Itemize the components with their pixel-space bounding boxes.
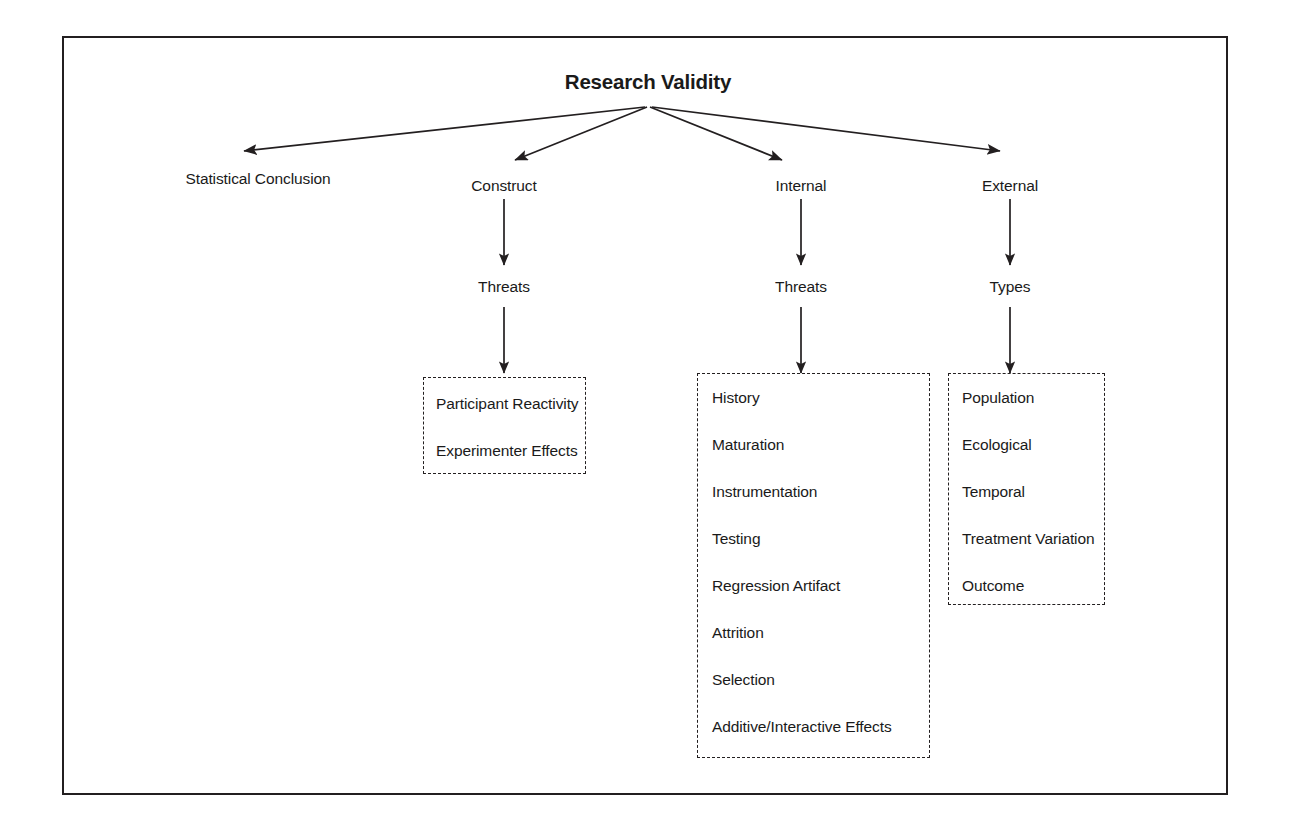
node-external-types: Types (990, 278, 1031, 296)
internal-threat-item: History (712, 389, 760, 407)
root-node-research-validity: Research Validity (565, 70, 731, 94)
internal-threat-item: Testing (712, 530, 760, 548)
construct-threat-item: Participant Reactivity (436, 395, 579, 413)
external-type-item: Treatment Variation (962, 530, 1095, 548)
external-type-item: Population (962, 389, 1034, 407)
internal-threat-item: Selection (712, 671, 775, 689)
internal-threat-item: Regression Artifact (712, 577, 840, 595)
node-construct-threats: Threats (478, 278, 530, 296)
construct-threat-item: Experimenter Effects (436, 442, 578, 460)
node-internal: Internal (776, 177, 827, 195)
internal-threat-item: Instrumentation (712, 483, 817, 501)
internal-threat-item: Additive/Interactive Effects (712, 718, 892, 736)
node-internal-threats: Threats (775, 278, 827, 296)
construct-threats-box: Participant Reactivity Experimenter Effe… (423, 377, 586, 474)
internal-threats-box: History Maturation Instrumentation Testi… (697, 373, 930, 758)
node-construct: Construct (471, 177, 536, 195)
external-types-box: Population Ecological Temporal Treatment… (948, 373, 1105, 605)
validity-diagram: Research Validity Statistical Conclusion… (0, 0, 1297, 826)
external-type-item: Ecological (962, 436, 1032, 454)
external-type-item: Temporal (962, 483, 1025, 501)
internal-threat-item: Attrition (712, 624, 764, 642)
node-statistical-conclusion: Statistical Conclusion (185, 170, 330, 188)
node-external: External (982, 177, 1038, 195)
external-type-item: Outcome (962, 577, 1024, 595)
internal-threat-item: Maturation (712, 436, 784, 454)
